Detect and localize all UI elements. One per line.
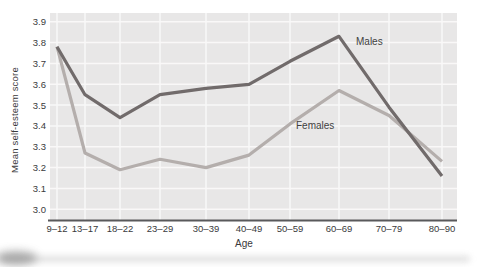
x-tick-label: 18–22: [107, 223, 133, 234]
x-tick-label: 50–59: [277, 223, 303, 234]
x-tick-label: 13–17: [72, 223, 98, 234]
x-tick-label: 40–49: [236, 223, 262, 234]
x-tick-label: 23–29: [147, 223, 173, 234]
x-tick-label: 70–79: [376, 223, 402, 234]
x-axis-title: Age: [216, 238, 272, 249]
self-esteem-figure: 3.93.83.73.63.53.43.33.23.13.09–1213–171…: [0, 0, 479, 267]
x-tick-label: 80–90: [429, 223, 455, 234]
y-tick-label: 3.3: [33, 141, 46, 152]
y-axis-title: Mean self-esteem score: [9, 67, 20, 173]
females-series-label: Females: [296, 120, 334, 131]
y-tick-label: 3.5: [33, 100, 46, 111]
y-tick-label: 3.2: [33, 162, 46, 173]
y-tick-label: 3.1: [33, 183, 46, 194]
y-tick-label: 3.6: [33, 79, 46, 90]
x-tick-label: 9–12: [46, 223, 67, 234]
y-tick-label: 3.8: [33, 37, 46, 48]
x-tick-label: 30–39: [193, 223, 219, 234]
self-esteem-line-chart: 3.93.83.73.63.53.43.33.23.13.09–1213–171…: [0, 0, 479, 267]
y-tick-label: 3.0: [33, 204, 46, 215]
males-series-label: Males: [356, 36, 383, 47]
y-tick-label: 3.9: [33, 16, 46, 27]
page-shadow-bottom: [2, 256, 470, 262]
y-tick-label: 3.4: [33, 120, 46, 131]
y-tick-label: 3.7: [33, 58, 46, 69]
x-tick-label: 60–69: [326, 223, 352, 234]
